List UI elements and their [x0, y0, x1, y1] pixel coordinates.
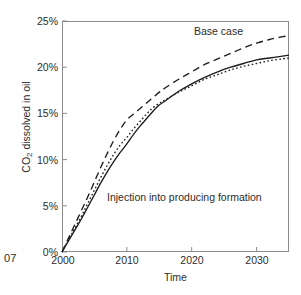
series-line-base-case — [62, 36, 289, 252]
annotation-injection-into-producing-formation: Injection into producing formation — [107, 191, 262, 203]
series-line-dotted-variant — [62, 58, 289, 252]
x-tick-label-2030: 2030 — [229, 255, 285, 266]
figure-container: 07 25% 20% 15% 10% 5% 0% CO2 dissolved i… — [0, 0, 301, 295]
x-tick-label-2020: 2020 — [164, 255, 220, 266]
x-axis-title: Time — [62, 271, 289, 283]
y-axis-ticks — [62, 21, 67, 252]
x-tick-label-2000: 2000 — [35, 255, 91, 266]
y-axis-title-suffix: dissolved in oil — [20, 81, 32, 152]
y-tick-label-25: 25% — [14, 16, 58, 27]
annotation-base-case: Base case — [194, 25, 243, 37]
x-axis-ticks — [63, 247, 257, 252]
chart-canvas — [62, 21, 289, 252]
y-axis-title-prefix: CO — [20, 157, 32, 173]
x-tick-label-2010: 2010 — [99, 255, 155, 266]
y-axis-title: CO2 dissolved in oil — [20, 37, 34, 217]
y-axis-title-subscript: 2 — [25, 153, 34, 157]
series-line-injection-into-producing-formation — [62, 55, 289, 252]
